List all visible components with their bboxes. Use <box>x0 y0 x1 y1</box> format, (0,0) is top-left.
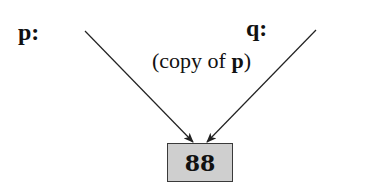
copy-note-prefix: (copy of <box>152 48 231 73</box>
arrow-q-to-88 <box>207 30 316 142</box>
target-value-box: 88 <box>167 143 233 182</box>
pointer-label-p: p: <box>18 20 39 44</box>
copy-note-bold: p <box>231 48 243 73</box>
copy-note-suffix: ) <box>244 48 251 73</box>
copy-note: (copy of p) <box>152 50 251 72</box>
target-value: 88 <box>185 150 216 176</box>
pointer-label-q: q: <box>246 16 267 40</box>
